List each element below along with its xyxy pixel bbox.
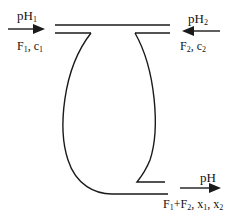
right-inlet-flow-label: F2, c2 [180,40,206,54]
left-inlet-flow-label: F1, c1 [17,40,43,54]
outlet-flow-label: F1+F2, x1, x2 [163,198,223,212]
vessel-drawing [0,0,231,223]
mixing-vessel-diagram: pH1 F1, c1 pH2 F2, c2 pH F1+F2, x1, x2 [0,0,231,223]
left-inlet-arrow-icon [8,24,45,34]
vessel-left-wall [63,33,168,194]
outlet-ph-label: pH [200,171,216,184]
right-inlet-arrow-icon [182,26,220,36]
vessel-right-wall [135,33,165,182]
left-inlet-ph-label: pH1 [17,9,37,24]
right-inlet-ph-label: pH2 [188,12,208,27]
